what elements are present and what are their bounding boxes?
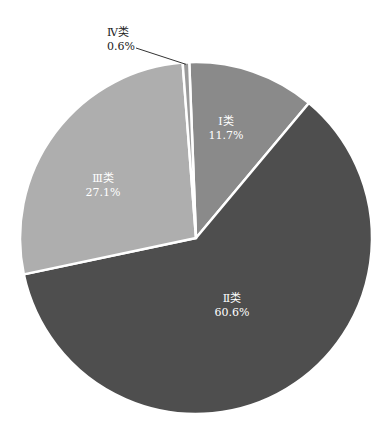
label-class-iv: Ⅳ类 0.6% xyxy=(107,26,135,54)
label-class-i-name: Ⅰ类 xyxy=(209,115,244,129)
pie-slices xyxy=(20,62,372,414)
label-class-i: Ⅰ类 11.7% xyxy=(209,115,244,143)
label-class-ii-name: Ⅱ类 xyxy=(215,292,250,306)
label-class-ii-pct: 60.6% xyxy=(215,306,250,320)
leader-line-iv xyxy=(136,48,186,64)
label-class-iv-name: Ⅳ类 xyxy=(107,26,135,40)
label-class-ii: Ⅱ类 60.6% xyxy=(215,292,250,320)
label-class-iii: Ⅲ类 27.1% xyxy=(86,172,121,200)
label-class-i-pct: 11.7% xyxy=(209,129,244,143)
label-class-iii-name: Ⅲ类 xyxy=(86,172,121,186)
label-class-iii-pct: 27.1% xyxy=(86,186,121,200)
pie-chart xyxy=(0,0,388,443)
label-class-iv-pct: 0.6% xyxy=(107,40,135,54)
slice-class-iii xyxy=(20,63,196,275)
